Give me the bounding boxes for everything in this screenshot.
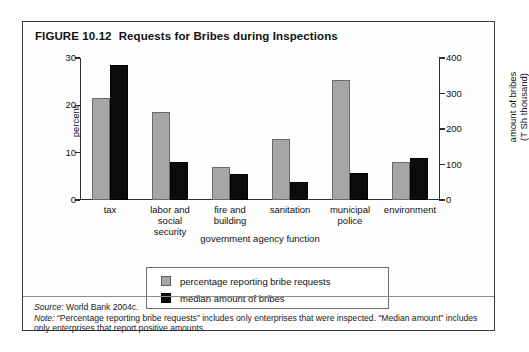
source-line: Source: World Bank 2004c. — [34, 302, 484, 313]
legend-swatch-gray-icon — [161, 276, 171, 286]
bar-group — [260, 58, 320, 200]
footer-divider — [23, 296, 494, 297]
left-axis-title: percent — [70, 87, 81, 157]
note-text: “Percentage reporting bribe requests” in… — [34, 313, 477, 334]
source-text: World Bank 2004c. — [64, 302, 139, 312]
bar-median-amount — [230, 174, 248, 200]
figure-panel: FIGURE 10.12Requests for Bribes during I… — [22, 21, 495, 331]
right-tick-label-200: 200 — [446, 124, 486, 134]
left-tick-label-30: 30 — [36, 53, 76, 63]
bar-group — [200, 58, 260, 200]
category-label: environment — [368, 204, 452, 215]
chart-plot-area: 0102030 0100200300400 taxlabor andsocial… — [80, 58, 440, 200]
right-axis-title-line1: amount of bribes — [507, 65, 518, 149]
bar-group — [140, 58, 200, 200]
right-tick-label-100: 100 — [446, 160, 486, 170]
right-axis-title-line2: (T Sh thousand) — [518, 65, 529, 149]
source-label: Source: — [34, 302, 64, 312]
bar-median-amount — [110, 65, 128, 200]
figure-footnotes: Source: World Bank 2004c. Note: “Percent… — [34, 302, 484, 334]
note-label: Note: — [34, 313, 55, 323]
right-tick-label-0: 0 — [446, 195, 486, 205]
bar-percentage — [152, 112, 170, 201]
bar-median-amount — [410, 158, 428, 200]
legend-label-percentage: percentage reporting bribe requests — [180, 276, 331, 287]
bar-median-amount — [170, 162, 188, 200]
bar-percentage — [92, 98, 110, 200]
figure-title-text: Requests for Bribes during Inspections — [119, 30, 338, 42]
right-axis-title: amount of bribes (T Sh thousand) — [507, 65, 529, 149]
bar-percentage — [332, 80, 350, 200]
bar-group — [80, 58, 140, 200]
figure-title: FIGURE 10.12Requests for Bribes during I… — [35, 30, 338, 42]
bar-percentage — [392, 162, 410, 200]
bar-group — [320, 58, 380, 200]
bar-group — [380, 58, 440, 200]
category-label-line: environment — [368, 204, 452, 215]
figure-number: FIGURE 10.12 — [35, 30, 112, 42]
right-tick-label-300: 300 — [446, 89, 486, 99]
right-tick-label-400: 400 — [446, 53, 486, 63]
category-label-line: building — [188, 215, 272, 226]
bar-percentage — [272, 139, 290, 200]
category-label-line: police — [308, 215, 392, 226]
legend-item-percentage: percentage reporting bribe requests — [161, 274, 331, 288]
note-line: Note: “Percentage reporting bribe reques… — [34, 313, 484, 334]
x-axis-title: government agency function — [80, 233, 440, 244]
bar-percentage — [212, 167, 230, 200]
bar-median-amount — [350, 173, 368, 200]
bar-median-amount — [290, 182, 308, 200]
